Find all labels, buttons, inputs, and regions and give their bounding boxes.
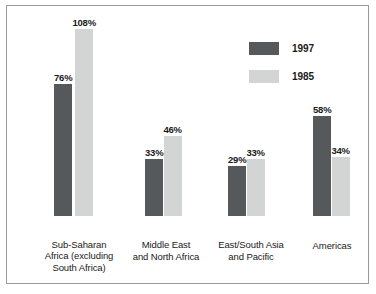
- bar-rect-1985: [75, 29, 93, 216]
- bar-americas-1997[interactable]: 58%: [313, 104, 331, 216]
- bar-chart-figure: 76% 108% Sub-Saharan Africa (excluding S…: [0, 0, 376, 294]
- bar-value-label: 46%: [163, 124, 181, 135]
- bar-middle-east-north-africa-1985[interactable]: 46%: [163, 124, 181, 216]
- chart-legend: 1997 1985: [249, 42, 314, 98]
- bar-east-south-asia-pacific-1985[interactable]: 33%: [246, 147, 264, 216]
- bar-sub-saharan-africa-1985[interactable]: 108%: [72, 17, 96, 216]
- bar-value-label: 76%: [54, 72, 72, 83]
- category-label-middle-east-north-africa: Middle East and North Africa: [123, 239, 209, 262]
- bar-rect-1997: [313, 116, 331, 216]
- bar-rect-1997: [228, 166, 246, 216]
- bar-americas-1985[interactable]: 34%: [331, 145, 349, 216]
- bar-rect-1985: [247, 159, 265, 216]
- bar-group-sub-saharan-africa: 76% 108% Sub-Saharan Africa (excluding S…: [35, 6, 123, 283]
- legend-label-1997: 1997: [292, 43, 314, 54]
- legend-label-1985: 1985: [292, 71, 314, 82]
- bar-rect-1997: [54, 84, 72, 216]
- bar-rect-1985: [164, 136, 182, 216]
- bar-rect-1997: [145, 159, 163, 216]
- bar-value-label: 33%: [145, 147, 163, 158]
- category-label-east-south-asia-pacific: East/South Asia and Pacific: [206, 239, 296, 262]
- bar-rect-1985: [332, 157, 350, 216]
- chart-frame-border: 76% 108% Sub-Saharan Africa (excluding S…: [6, 5, 369, 284]
- bar-value-label: 29%: [228, 154, 246, 165]
- bar-sub-saharan-africa-1997[interactable]: 76%: [54, 72, 72, 216]
- bar-group-middle-east-north-africa: 33% 46% Middle East and North Africa: [123, 6, 209, 283]
- legend-entry-1997[interactable]: 1997: [249, 42, 314, 55]
- category-label-sub-saharan-africa: Sub-Saharan Africa (excluding South Afri…: [35, 239, 123, 274]
- legend-entry-1985[interactable]: 1985: [249, 70, 314, 83]
- legend-swatch-1985-icon: [249, 70, 279, 83]
- bar-middle-east-north-africa-1997[interactable]: 33%: [145, 147, 163, 216]
- category-label-americas: Americas: [295, 240, 369, 252]
- legend-swatch-1997-icon: [249, 42, 279, 55]
- bar-value-label: 33%: [246, 147, 264, 158]
- bar-value-label: 108%: [72, 17, 96, 28]
- bar-value-label: 34%: [331, 145, 349, 156]
- bar-east-south-asia-pacific-1997[interactable]: 29%: [228, 154, 246, 216]
- bar-value-label: 58%: [313, 104, 331, 115]
